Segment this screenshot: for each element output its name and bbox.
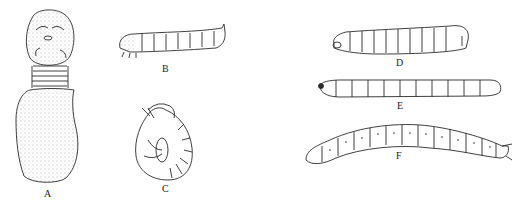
larva-b-drawing xyxy=(120,24,226,58)
larva-illustration: A B C D E F xyxy=(0,0,522,208)
larva-c-drawing xyxy=(136,104,193,180)
panel-label-c: C xyxy=(162,183,169,194)
panel-label-b: B xyxy=(162,63,169,74)
larva-e-drawing xyxy=(319,80,501,97)
panel-label-e: E xyxy=(397,100,403,111)
larva-f-drawing xyxy=(306,125,512,164)
panel-label-f: F xyxy=(396,150,402,161)
panel-label-a: A xyxy=(44,188,51,199)
larva-a-drawing xyxy=(16,10,78,182)
panel-label-d: D xyxy=(396,57,403,68)
larva-d-drawing xyxy=(333,26,468,54)
illustration-drawing xyxy=(0,0,522,208)
